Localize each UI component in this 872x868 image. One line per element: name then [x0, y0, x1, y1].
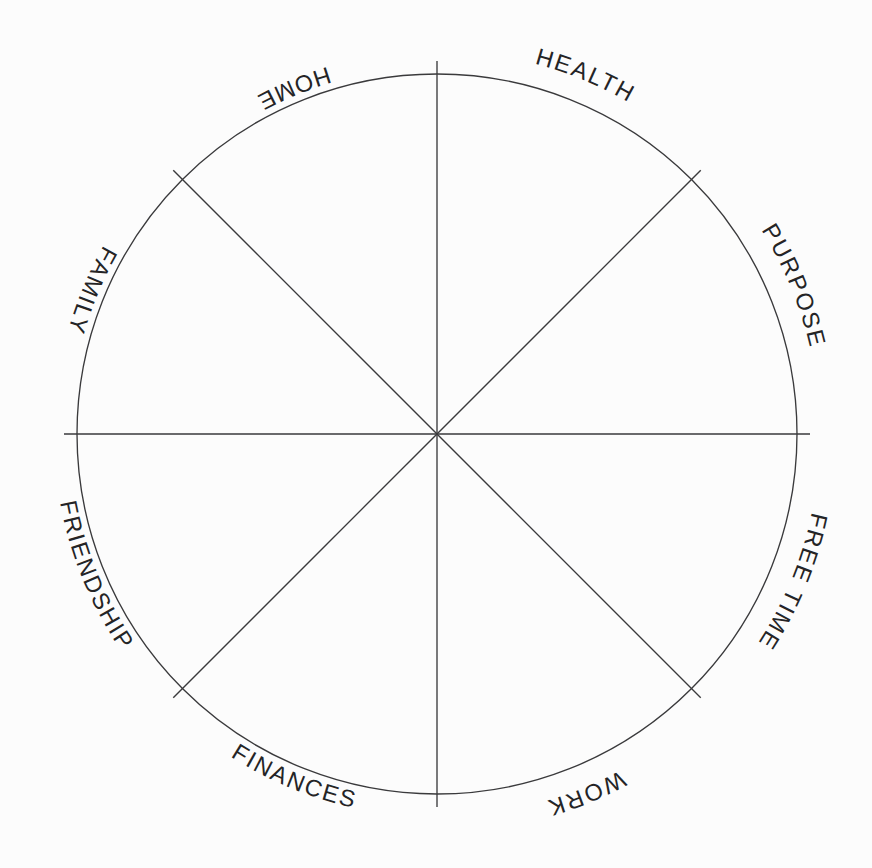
wheel-of-life-diagram: HEALTHPURPOSEFREE TIMEWORKFINANCESFRIEND…: [0, 0, 872, 868]
sector-label-friendship-text: FRIENDSHIP: [55, 498, 140, 655]
sector-label-health-text: HEALTH: [533, 43, 640, 107]
wheel-canvas: HEALTHPURPOSEFREE TIMEWORKFINANCESFRIEND…: [0, 0, 872, 868]
wheel-spokes-group: [64, 61, 810, 807]
sector-label-finances: FINANCES: [228, 739, 360, 813]
sector-label-finances-text: FINANCES: [228, 739, 360, 813]
sector-label-health: HEALTH: [533, 43, 640, 107]
sector-label-work: WORK: [544, 766, 630, 822]
sector-label-family-text: FAMILY: [63, 243, 122, 339]
sector-label-work-text: WORK: [544, 766, 630, 822]
sector-label-purpose-text: PURPOSE: [757, 219, 831, 350]
sector-label-family: FAMILY: [63, 243, 122, 339]
sector-label-friendship: FRIENDSHIP: [55, 498, 140, 655]
sector-label-purpose: PURPOSE: [757, 219, 831, 350]
sector-label-home-text: HOME: [252, 62, 334, 116]
wheel-labels-group: HEALTHPURPOSEFREE TIMEWORKFINANCESFRIEND…: [55, 43, 832, 821]
sector-label-home: HOME: [252, 62, 334, 116]
